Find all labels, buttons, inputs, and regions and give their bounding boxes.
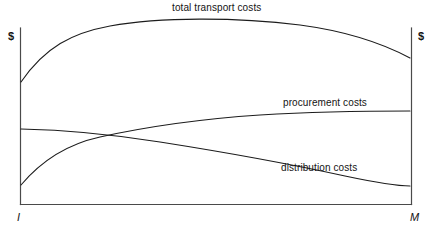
annotation-distribution-costs: distribution costs xyxy=(281,162,357,174)
annotation-total-transport-costs: total transport costs xyxy=(172,2,261,14)
y-axis-unit-right: $ xyxy=(418,30,424,42)
y-axis-unit-left: $ xyxy=(8,30,14,42)
annotation-procurement-costs: procurement costs xyxy=(283,97,367,109)
cost-tradeoff-chart: total transport costs procurement costs … xyxy=(0,0,431,231)
curve-total-transport-costs xyxy=(21,19,410,82)
x-axis-label-source: I xyxy=(17,211,20,223)
chart-plot-area xyxy=(0,0,431,231)
x-axis-label-market: M xyxy=(410,211,419,223)
curve-distribution-costs xyxy=(21,129,410,186)
